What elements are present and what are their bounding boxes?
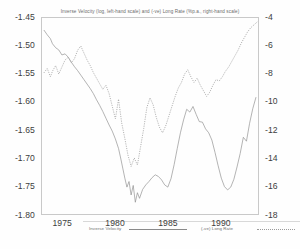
- left-y-axis: -1.45-1.50-1.55-1.60-1.65-1.70-1.75-1.80: [0, 17, 38, 215]
- right-y-axis: -4-6-8-10-12-14-16-18: [261, 17, 297, 215]
- chart-title: Inverse Velocity (log, left-hand scale) …: [42, 9, 258, 15]
- left-axis-tick-7: -1.80: [15, 211, 35, 220]
- right-axis-tick-4: -12: [265, 126, 278, 135]
- left-axis-tick-2: -1.55: [15, 69, 35, 78]
- x-axis-tick-0: 1975: [52, 219, 72, 228]
- plot-canvas: [42, 18, 258, 214]
- series-line-inverse-velocity: [44, 30, 256, 202]
- right-axis-tick-1: -6: [265, 41, 273, 50]
- x-axis-tick-2: 1985: [158, 219, 178, 228]
- right-axis-tick-7: -18: [265, 211, 278, 220]
- left-axis-tick-5: -1.70: [15, 154, 35, 163]
- right-axis-tick-0: -4: [265, 13, 273, 22]
- left-axis-tick-3: -1.60: [15, 97, 35, 106]
- left-axis-tick-4: -1.65: [15, 126, 35, 135]
- x-axis-tick-3: 1990: [211, 219, 231, 228]
- x-axis: 1975198019851990: [41, 219, 259, 233]
- left-axis-tick-6: -1.75: [15, 182, 35, 191]
- plot-area: Inverse Velocity (-ve) Long Rate: [41, 17, 259, 215]
- right-axis-tick-2: -8: [265, 69, 273, 78]
- x-axis-tick-1: 1980: [105, 219, 125, 228]
- right-axis-tick-6: -16: [265, 182, 278, 191]
- right-axis-tick-3: -10: [265, 97, 278, 106]
- series-line-long-rate: [44, 22, 257, 166]
- right-axis-tick-5: -14: [265, 154, 278, 163]
- legend-swatch-dotted-line: [257, 229, 295, 231]
- chart-figure: Inverse Velocity (log, left-hand scale) …: [0, 0, 300, 249]
- left-axis-tick-0: -1.45: [15, 13, 35, 22]
- left-axis-tick-1: -1.50: [15, 41, 35, 50]
